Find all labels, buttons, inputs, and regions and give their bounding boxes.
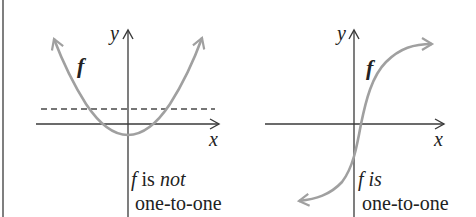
one-to-one-diagram: y x f f is not one-to-one y x f f is one… <box>0 0 476 217</box>
caption-is: is <box>364 168 383 190</box>
left-caption-line1: f is not <box>131 168 186 191</box>
right-caption-line1: f is <box>358 168 382 191</box>
parabola-curve <box>54 39 128 135</box>
left-x-label: x <box>208 128 218 150</box>
left-caption-line2: one-to-one <box>135 192 222 214</box>
parabola-curve-right <box>128 38 202 135</box>
right-caption-line2: one-to-one <box>362 192 449 214</box>
left-y-label: y <box>108 22 119 45</box>
s-curve-lower <box>299 124 361 201</box>
left-f-label: f <box>77 53 87 78</box>
caption-is: is <box>137 168 160 190</box>
right-graph: y x f f is one-to-one <box>265 22 449 217</box>
right-y-label: y <box>335 22 346 45</box>
caption-not: not <box>160 168 186 190</box>
right-x-label: x <box>433 128 443 150</box>
left-graph: y x f f is not one-to-one <box>36 22 222 217</box>
